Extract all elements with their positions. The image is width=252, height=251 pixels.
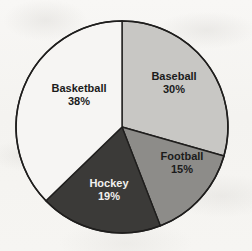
pie-chart-page: Baseball 30% Football 15% Hockey 19% Bas… [0, 0, 252, 251]
pie-chart-svg [0, 0, 252, 251]
pie-chart: Baseball 30% Football 15% Hockey 19% Bas… [0, 0, 252, 251]
pie-slice-group [16, 21, 228, 233]
